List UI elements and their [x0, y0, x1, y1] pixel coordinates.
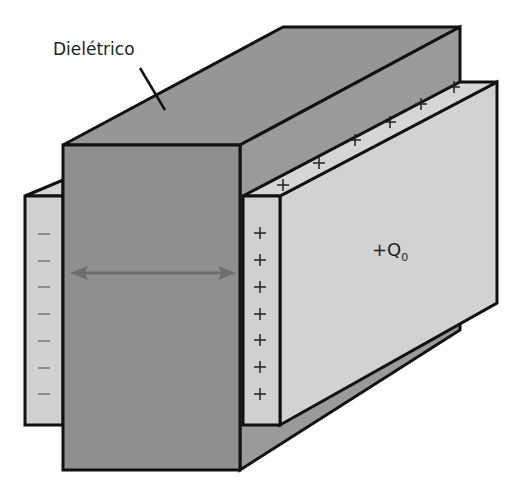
right-plate-front [243, 196, 280, 425]
capacitor-diagram: Dielétrico +Q0 [0, 0, 522, 491]
left-plate-front [25, 196, 63, 425]
left-plate-top [25, 180, 63, 196]
dielectric-front-face [63, 145, 240, 470]
dielectric-label: Dielétrico [53, 39, 135, 59]
